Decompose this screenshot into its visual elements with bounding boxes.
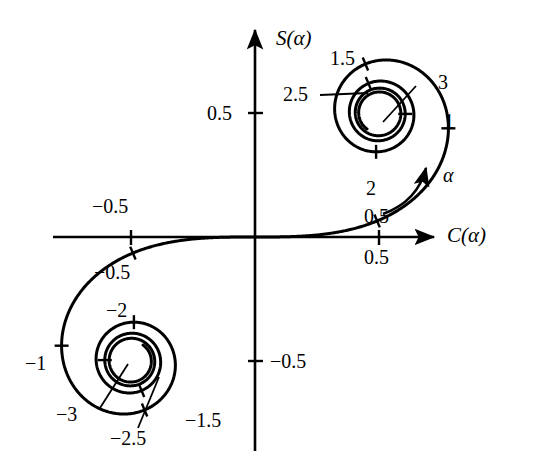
leader-line-2point5 xyxy=(320,93,368,95)
param-label-neg0.5: −0.5 xyxy=(94,262,130,282)
param-label-neg3: −3 xyxy=(56,404,77,424)
param-label-3: 3 xyxy=(438,72,448,92)
cornu-spiral-figure: S(α) C(α) 0.5 −0.5 −0.5 0.5 0.5 1 1.5 2 … xyxy=(0,0,535,465)
y-tick-label-neg0.5: −0.5 xyxy=(270,351,306,371)
param-label-0.5: 0.5 xyxy=(364,206,389,226)
y-axis-label: S(α) xyxy=(276,28,312,49)
param-label-neg1: −1 xyxy=(25,353,46,373)
param-label-neg2.5: −2.5 xyxy=(110,428,146,448)
param-label-2: 2 xyxy=(366,178,376,198)
x-tick-label-0.5: 0.5 xyxy=(364,247,389,267)
y-tick-label-0.5: 0.5 xyxy=(207,103,232,123)
param-label-neg2: −2 xyxy=(106,300,127,320)
param-label-neg1.5: −1.5 xyxy=(185,410,221,430)
param-label-1: 1 xyxy=(444,111,454,131)
alpha-arrow-label: α xyxy=(443,165,454,185)
x-tick-label-neg0.5: −0.5 xyxy=(92,196,128,216)
x-axis-label: C(α) xyxy=(447,225,486,246)
param-label-1.5: 1.5 xyxy=(330,48,355,68)
param-label-2.5: 2.5 xyxy=(283,84,308,104)
